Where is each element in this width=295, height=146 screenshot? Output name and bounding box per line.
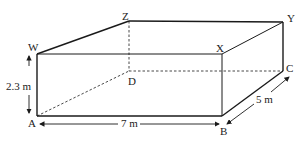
cuboid-diagram: W Z Y X D C A B 2.3 m 7 m 5 m xyxy=(0,0,295,146)
vertex-label-y: Y xyxy=(287,13,295,24)
visible-edges xyxy=(37,21,283,116)
vertex-label-a: A xyxy=(28,118,36,129)
length-dimension-label: 7 m xyxy=(121,118,138,129)
cuboid-drawing xyxy=(0,0,295,146)
vertex-label-c: C xyxy=(286,63,293,74)
vertex-label-w: W xyxy=(28,42,38,53)
hidden-edges xyxy=(37,21,283,116)
width-dimension-label: 5 m xyxy=(256,94,273,105)
height-dimension-label: 2.3 m xyxy=(6,81,31,92)
vertex-label-d: D xyxy=(128,76,136,87)
dimension-arrows xyxy=(29,56,289,124)
vertex-label-b: B xyxy=(220,126,227,137)
vertex-label-z: Z xyxy=(122,11,129,22)
vertex-label-x: X xyxy=(216,43,224,54)
